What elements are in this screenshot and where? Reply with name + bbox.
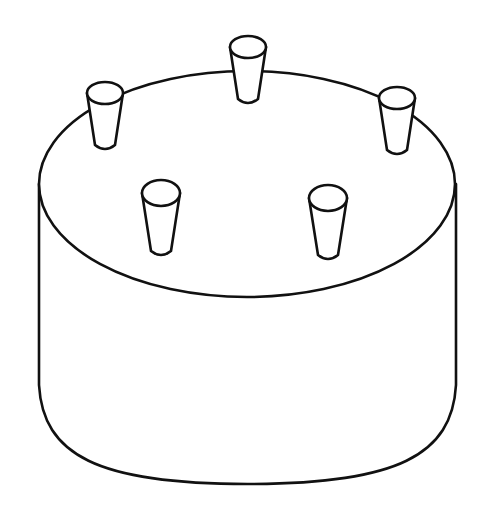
peg-top-ellipse xyxy=(230,36,266,58)
peg-top-ellipse xyxy=(379,87,415,109)
peg-top-ellipse xyxy=(309,185,347,211)
peg-top-ellipse xyxy=(142,180,180,206)
line-drawing xyxy=(0,0,492,516)
peg-top-ellipse xyxy=(87,82,123,104)
cylinder-with-pegs-drawing xyxy=(0,0,492,516)
